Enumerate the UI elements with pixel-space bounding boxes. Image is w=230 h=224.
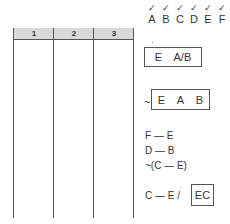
check-item-f: ✓F xyxy=(215,4,229,25)
rule-line: D — B xyxy=(145,145,174,157)
check-item-a: ✓A xyxy=(145,4,159,25)
box-part: E xyxy=(155,51,162,63)
box-part: E xyxy=(158,94,165,106)
grid-header: 1 2 3 xyxy=(14,28,134,40)
block-box-e-ab: E A/B xyxy=(144,47,202,67)
column-header-3: 3 xyxy=(94,28,134,39)
check-item-b: ✓B xyxy=(159,4,173,25)
block-box-ec: EC xyxy=(191,184,214,206)
stray-mark xyxy=(152,42,153,43)
checkmark-icon: ✓ xyxy=(159,4,173,13)
checked-letters: ✓A ✓B ✓C ✓D ✓E ✓F xyxy=(145,4,229,25)
rule-line: F — E xyxy=(145,130,173,142)
grid-line xyxy=(133,28,134,218)
grid-line xyxy=(53,28,54,218)
checkmark-icon: ✓ xyxy=(187,4,201,13)
grid-line xyxy=(93,28,94,218)
column-header-1: 1 xyxy=(14,28,54,39)
check-item-e: ✓E xyxy=(201,4,215,25)
block-box-not-eab: E A B xyxy=(151,89,210,110)
checkmark-icon: ✓ xyxy=(201,4,215,13)
box-part: A/B xyxy=(174,51,192,63)
box-part: A xyxy=(177,94,184,106)
checkmark-icon: ✓ xyxy=(173,4,187,13)
box-part: B xyxy=(196,94,203,106)
rule-line-final: C — E / xyxy=(145,190,180,202)
box-label: EC xyxy=(195,189,210,201)
negation-symbol: ~ xyxy=(144,96,150,108)
rule-line: ~(C — E) xyxy=(145,160,187,172)
check-item-d: ✓D xyxy=(187,4,201,25)
column-header-2: 2 xyxy=(54,28,94,39)
check-item-c: ✓C xyxy=(173,4,187,25)
grid-line xyxy=(13,28,14,218)
answer-grid: 1 2 3 xyxy=(14,28,134,218)
checkmark-icon: ✓ xyxy=(145,4,159,13)
checkmark-icon: ✓ xyxy=(215,4,229,13)
